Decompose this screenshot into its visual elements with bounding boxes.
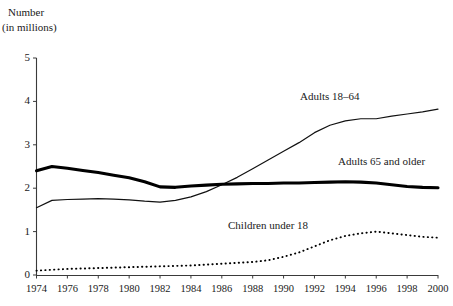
- series-label-children-under-18: Children under 18: [228, 219, 308, 231]
- series-label-adults-65-and-older: Adults 65 and older: [338, 155, 425, 167]
- series-label-adults-18-64: Adults 18–64: [300, 90, 360, 102]
- series-line-children-under-18: [37, 232, 439, 271]
- data-series-group: [37, 109, 439, 270]
